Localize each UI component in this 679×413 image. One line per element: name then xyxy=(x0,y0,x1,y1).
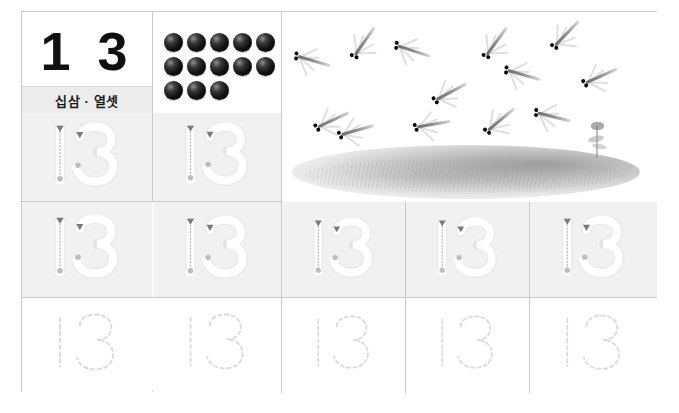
trace-glyph-13 xyxy=(406,298,529,392)
trace-cell[interactable] xyxy=(406,202,529,297)
trace-glyph-13 xyxy=(530,298,657,392)
trace-cell[interactable] xyxy=(22,298,152,392)
trace-cell[interactable] xyxy=(22,202,152,297)
trace-glyph-13 xyxy=(282,202,405,297)
trace-glyph-13 xyxy=(22,298,152,392)
trace-glyph-13 xyxy=(530,202,657,297)
worksheet-page: 1 3 십삼 · 열셋 xyxy=(0,0,679,413)
trace-glyph-13 xyxy=(22,113,152,201)
trace-cell[interactable] xyxy=(282,202,405,297)
trace-cell[interactable] xyxy=(22,113,152,201)
trace-glyph-13 xyxy=(406,202,529,297)
trace-glyph-13 xyxy=(22,202,152,297)
trace-cell[interactable] xyxy=(282,298,405,392)
trace-cell[interactable] xyxy=(530,202,657,297)
worksheet-grid: 1 3 십삼 · 열셋 xyxy=(21,11,657,392)
trace-cell[interactable] xyxy=(530,298,657,392)
trace-cell[interactable] xyxy=(153,202,281,297)
trace-cell[interactable] xyxy=(406,298,529,392)
trace-cell[interactable] xyxy=(153,113,281,201)
trace-glyph-13 xyxy=(153,202,281,297)
trace-cell[interactable] xyxy=(153,298,281,392)
trace-glyph-13 xyxy=(282,298,405,392)
trace-glyph-13 xyxy=(153,113,281,201)
trace-glyph-13 xyxy=(153,298,281,392)
